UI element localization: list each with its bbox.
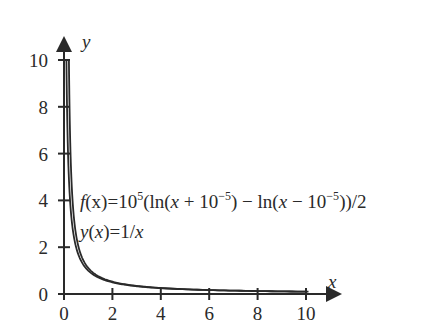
y-tick-label: 8: [39, 97, 49, 118]
x-tick-label: 6: [204, 303, 214, 324]
equation-y-label: y(x)=1/x: [78, 221, 144, 243]
curve-f: [66, 60, 306, 292]
y-axis-label: y: [80, 31, 91, 52]
x-tick-label: 10: [297, 303, 316, 324]
y-tick-label: 4: [39, 190, 49, 211]
curves: [66, 60, 308, 292]
x-axis-label: x: [327, 271, 337, 292]
curve-y: [69, 60, 309, 292]
x-tick-label: 0: [59, 303, 69, 324]
x-tick-label: 8: [253, 303, 263, 324]
x-tick-label: 4: [156, 303, 166, 324]
x-tick-label: 2: [108, 303, 118, 324]
axes: [58, 44, 334, 300]
chart: 0246810 0246810 x y f(x)=105(ln(x + 10−5…: [0, 0, 448, 336]
y-tick-label: 10: [29, 50, 48, 71]
y-tick-label: 6: [39, 144, 49, 165]
y-tick-label: 0: [39, 284, 49, 305]
y-tick-label: 2: [39, 237, 49, 258]
equation-f-label: f(x)=105(ln(x + 10−5) − ln(x − 10−5))/2: [80, 189, 367, 213]
